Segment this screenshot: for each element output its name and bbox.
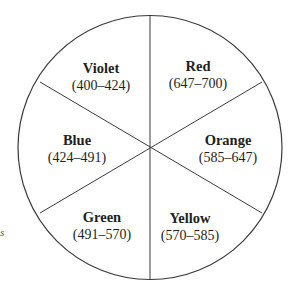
segment-name: Violet (56, 60, 146, 77)
segment-name: Yellow (145, 210, 235, 227)
segment-name: Red (153, 58, 243, 75)
segment-yellow: Yellow (570–585) (145, 210, 235, 244)
segment-violet: Violet (400–424) (56, 60, 146, 94)
segment-range: (424–491) (32, 149, 122, 166)
stray-text-fragment: s (0, 226, 4, 238)
segment-orange: Orange (585–647) (183, 132, 273, 166)
segment-name: Orange (183, 132, 273, 149)
segment-range: (570–585) (145, 227, 235, 244)
segment-range: (400–424) (56, 77, 146, 94)
segment-red: Red (647–700) (153, 58, 243, 92)
segment-range: (585–647) (183, 149, 273, 166)
segment-name: Green (57, 209, 147, 226)
segment-range: (491–570) (57, 226, 147, 243)
segment-blue: Blue (424–491) (32, 132, 122, 166)
segment-range: (647–700) (153, 75, 243, 92)
segment-green: Green (491–570) (57, 209, 147, 243)
segment-name: Blue (32, 132, 122, 149)
